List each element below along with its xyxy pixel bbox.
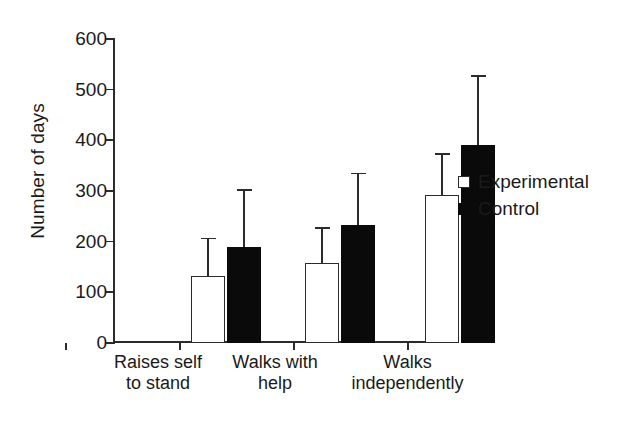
error-bar-experimental-2: [441, 155, 443, 195]
category-label-2: Walksindependently: [320, 352, 495, 394]
error-cap-experimental-2: [435, 153, 450, 155]
y-tick-label: 0: [96, 332, 107, 354]
bar-experimental-1: [305, 263, 339, 343]
error-bar-control-1: [357, 174, 359, 225]
bar-experimental-2: [425, 195, 459, 343]
filled-square-icon: [458, 203, 470, 215]
y-tick-mark: [106, 342, 113, 344]
x-axis-line: [113, 341, 455, 343]
category-label-line1: Walks: [320, 352, 495, 373]
error-cap-control-2: [471, 75, 486, 77]
y-tick-label: 300: [75, 180, 107, 202]
bar-chart-figure: Number of days 0100200300400500600 Raise…: [0, 0, 625, 431]
y-tick-label: 200: [75, 231, 107, 253]
error-cap-experimental-1: [315, 227, 330, 229]
plot-area: 0100200300400500600: [113, 39, 455, 343]
y-tick-label: 500: [75, 79, 107, 101]
error-bar-control-2: [477, 77, 479, 145]
chart-legend: ExperimentalControl: [458, 168, 589, 222]
x-tick-2: [293, 343, 295, 350]
bar-experimental-0: [191, 276, 225, 343]
error-bar-experimental-1: [321, 229, 323, 263]
y-tick-mark: [106, 89, 113, 91]
open-square-icon: [458, 176, 470, 188]
y-tick-mark: [106, 190, 113, 192]
error-cap-control-1: [351, 173, 366, 175]
error-cap-control-0: [237, 189, 252, 191]
legend-entry-experimental: Experimental: [458, 168, 589, 195]
y-tick-mark: [106, 38, 113, 40]
category-label-line2: independently: [320, 373, 495, 394]
legend-label: Experimental: [478, 171, 589, 193]
y-axis-line: [113, 38, 115, 344]
y-tick-mark: [106, 291, 113, 293]
y-tick-mark: [106, 241, 113, 243]
y-axis-label: Number of days: [27, 71, 49, 271]
y-tick-label: 100: [75, 281, 107, 303]
error-bar-experimental-0: [207, 239, 209, 275]
y-tick-label: 600: [75, 28, 107, 50]
y-tick-mark: [106, 139, 113, 141]
legend-entry-control: Control: [458, 195, 589, 222]
x-tick-3: [407, 343, 409, 350]
bar-control-1: [341, 225, 375, 343]
error-cap-experimental-0: [201, 238, 216, 240]
x-tick-0: [65, 343, 67, 350]
error-bar-control-0: [243, 191, 245, 247]
x-tick-1: [179, 343, 181, 350]
bar-control-0: [227, 247, 261, 343]
y-tick-label: 400: [75, 129, 107, 151]
legend-label: Control: [478, 198, 539, 220]
